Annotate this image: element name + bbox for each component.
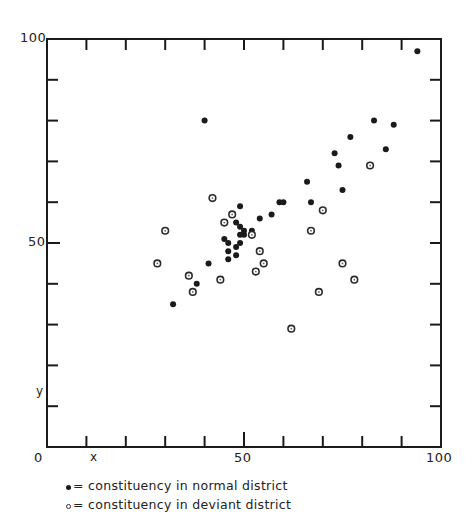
- deviant-point-center: [259, 250, 261, 252]
- normal-district-point: [170, 301, 176, 307]
- deviant-point-center: [231, 214, 233, 216]
- normal-district-point: [304, 179, 310, 185]
- normal-district-point: [347, 134, 353, 140]
- normal-district-point: [280, 199, 286, 205]
- x-mid-label: 50: [234, 450, 252, 465]
- deviant-point-center: [290, 328, 292, 330]
- normal-district-point: [206, 260, 212, 266]
- deviant-point-center: [353, 279, 355, 281]
- deviant-point-center: [164, 230, 166, 232]
- normal-district-point: [371, 118, 377, 124]
- deviant-point-center: [318, 291, 320, 293]
- data-points: [154, 48, 420, 332]
- normal-district-point: [269, 211, 275, 217]
- origin-label: 0: [34, 450, 43, 465]
- plot-frame: [47, 39, 441, 447]
- y-max-label: 100: [20, 30, 46, 45]
- deviant-point-center: [369, 165, 371, 167]
- deviant-point-center: [251, 234, 253, 236]
- y-mid-label: 50: [28, 234, 46, 249]
- normal-district-point: [237, 203, 243, 209]
- normal-district-point: [308, 199, 314, 205]
- normal-district-point: [332, 150, 338, 156]
- normal-district-point: [340, 187, 346, 193]
- normal-district-point: [233, 252, 239, 258]
- scatter-plot: [0, 0, 472, 526]
- x-axis-label: x: [90, 450, 97, 464]
- normal-district-point: [225, 248, 231, 254]
- normal-district-point: [233, 244, 239, 250]
- normal-district-point: [336, 162, 342, 168]
- filled-dot-icon: [64, 478, 72, 493]
- normal-district-point: [194, 281, 200, 287]
- deviant-point-center: [263, 263, 265, 265]
- normal-district-point: [202, 118, 208, 124]
- deviant-point-center: [219, 279, 221, 281]
- normal-district-point: [225, 240, 231, 246]
- ringed-dot-icon: [64, 497, 72, 512]
- deviant-point-center: [223, 222, 225, 224]
- normal-district-point: [241, 232, 247, 238]
- deviant-point-center: [156, 263, 158, 265]
- legend-normal-label: = constituency in normal district: [73, 478, 288, 493]
- axis-ticks: [47, 39, 441, 447]
- deviant-point-center: [212, 197, 214, 199]
- normal-district-point: [225, 256, 231, 262]
- normal-district-point: [383, 146, 389, 152]
- normal-district-point: [414, 48, 420, 54]
- deviant-point-center: [192, 291, 194, 293]
- legend-deviant-label: = constituency in deviant district: [73, 497, 291, 512]
- normal-district-point: [257, 216, 263, 222]
- deviant-point-center: [322, 209, 324, 211]
- deviant-point-center: [188, 275, 190, 277]
- y-axis-label: y: [36, 384, 43, 398]
- legend-normal: = constituency in normal district: [64, 478, 288, 493]
- deviant-point-center: [342, 263, 344, 265]
- normal-district-point: [391, 122, 397, 128]
- legend-deviant: = constituency in deviant district: [64, 497, 291, 512]
- deviant-point-center: [255, 271, 257, 273]
- x-max-label: 100: [426, 450, 452, 465]
- deviant-point-center: [310, 230, 312, 232]
